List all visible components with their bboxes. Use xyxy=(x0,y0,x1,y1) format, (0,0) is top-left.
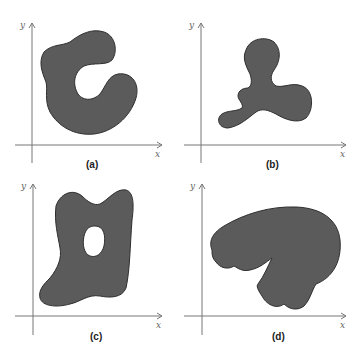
panel-label-a: (a) xyxy=(86,159,98,170)
x-axis-label: x xyxy=(340,320,345,330)
panel-b: y x (b) xyxy=(184,20,346,170)
panel-label-b: (b) xyxy=(266,159,279,170)
y-axis-label: y xyxy=(189,181,196,191)
y-axis-label: y xyxy=(19,20,26,30)
figure-canvas: y x (a) y x (b) y x (c) y x (d) xyxy=(0,0,361,359)
panel-label-d: (d) xyxy=(272,331,285,342)
shape-d-cap-with-notch xyxy=(211,207,341,309)
x-axis-label: x xyxy=(156,320,161,330)
y-axis-label: y xyxy=(188,20,195,30)
panel-c: y x (c) xyxy=(15,181,162,342)
x-axis-label: x xyxy=(340,149,345,159)
shape-c-with-hole xyxy=(40,190,134,306)
x-axis-label: x xyxy=(155,149,160,159)
y-axis-label: y xyxy=(20,181,27,191)
panel-a: y x (a) xyxy=(15,20,162,170)
panel-label-c: (c) xyxy=(90,331,102,342)
shape-a-c-shaped xyxy=(41,31,137,135)
shape-b-three-lobed xyxy=(219,39,312,128)
panel-d: y x (d) xyxy=(184,181,346,342)
